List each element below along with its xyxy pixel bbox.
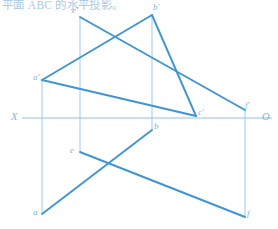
projection-lines-group [42, 15, 245, 217]
point-label-b-prime: b' [153, 3, 159, 12]
segment-seg-a-b [42, 130, 152, 214]
point-label-a: a [33, 208, 38, 217]
axis-label-x: X [11, 112, 17, 123]
point-label-e: e [70, 146, 74, 155]
point-label-f: f [247, 209, 250, 218]
segment-seg-ep-fp [80, 17, 245, 110]
figure-caption: 平面 ABC 的水平投影。 [2, 0, 123, 12]
point-label-b: b [154, 122, 159, 131]
point-label-e-prime: e' [72, 6, 78, 15]
projection-drawing-figure: 平面 ABC 的水平投影。 XO a'b'c'e'f'abef [0, 0, 278, 229]
point-label-c-prime: c' [198, 108, 204, 117]
segment-seg-bp-cp [152, 15, 196, 116]
segment-seg-e-f [80, 152, 245, 217]
bold-segments-group [42, 15, 245, 217]
point-label-a-prime: a' [33, 73, 39, 82]
segment-seg-ap-cp [42, 80, 196, 116]
point-label-f-prime: f' [245, 101, 249, 110]
axis-label-o: O [262, 112, 270, 123]
drawing-canvas [0, 0, 278, 229]
